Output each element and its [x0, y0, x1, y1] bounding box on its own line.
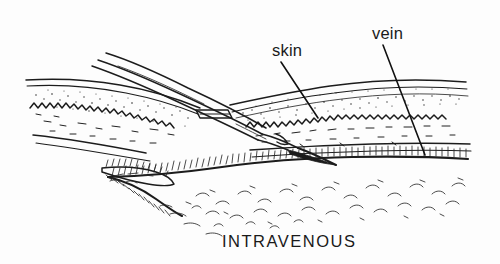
- subcutis-flecks: [36, 114, 455, 147]
- needle-lower-edge: [92, 66, 258, 140]
- vein-group: [102, 146, 468, 216]
- illustration-canvas: skin vein INTRAVENOUS: [0, 0, 500, 264]
- dermis-wave-right: [246, 115, 446, 127]
- needle-upper-edge: [98, 60, 262, 134]
- label-skin: skin: [272, 41, 302, 59]
- vein-leader-line: [383, 45, 425, 155]
- skin-layer-group: [26, 79, 471, 161]
- vein-lower-wall-hatching: [106, 175, 170, 216]
- label-vein: vein: [372, 24, 403, 42]
- figure-caption: INTRAVENOUS: [222, 232, 356, 250]
- intravenous-illustration: skin vein INTRAVENOUS: [0, 0, 500, 264]
- deep-tissue-squiggles: [160, 178, 465, 236]
- skin-leader-line: [281, 62, 318, 118]
- dermis-wave-left: [30, 103, 174, 128]
- epidermis-third-line: [236, 94, 468, 118]
- needle-group: [92, 53, 336, 165]
